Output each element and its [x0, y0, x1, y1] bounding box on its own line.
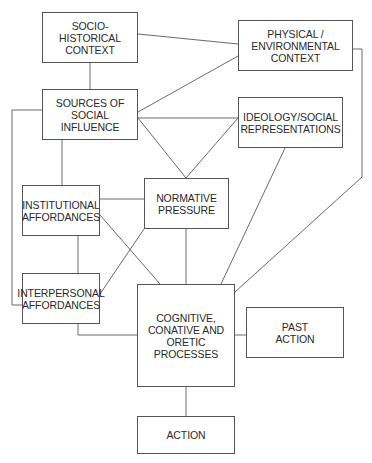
node-cognitive: COGNITIVE, CONATIVE AND ORETIC PROCESSES — [137, 284, 235, 387]
node-sources: SOURCES OF SOCIAL INFLUENCE — [42, 89, 138, 140]
edge-physical-to-cognitive — [235, 49, 362, 292]
node-ideology: IDEOLOGY/SOCIAL REPRESENTATIONS — [238, 97, 343, 148]
node-label: NORMATIVE PRESSURE — [156, 192, 217, 216]
edge-socio-historical-to-physical — [138, 34, 238, 44]
node-label: COGNITIVE, CONATIVE AND ORETIC PROCESSES — [148, 312, 224, 360]
node-label: INTERPERSONAL AFFORDANCES — [17, 287, 104, 311]
node-institutional: INSTITUTIONAL AFFORDANCES — [22, 185, 100, 236]
node-past-action: PAST ACTION — [246, 307, 344, 358]
node-socio-historical: SOCIO-HISTORICAL CONTEXT — [42, 12, 138, 63]
edge-interpersonal-to-cognitive — [78, 324, 137, 335]
node-label: IDEOLOGY/SOCIAL REPRESENTATIONS — [240, 111, 340, 135]
edge-ideology-to-cognitive — [221, 148, 285, 284]
node-label: ACTION — [166, 429, 205, 441]
node-interpersonal: INTERPERSONAL AFFORDANCES — [22, 273, 100, 324]
node-physical: PHYSICAL / ENVIRONMENTAL CONTEXT — [238, 20, 353, 71]
node-label: PHYSICAL / ENVIRONMENTAL CONTEXT — [251, 28, 339, 64]
node-label: SOURCES OF SOCIAL INFLUENCE — [43, 97, 137, 133]
node-label: PAST ACTION — [275, 321, 314, 345]
edge-sources-to-normative — [138, 118, 186, 178]
node-label: SOCIO-HISTORICAL CONTEXT — [43, 20, 137, 56]
edge-ideology-to-normative — [186, 118, 238, 178]
node-normative: NORMATIVE PRESSURE — [144, 178, 229, 229]
node-label: INSTITUTIONAL AFFORDANCES — [22, 199, 100, 223]
node-action: ACTION — [137, 416, 235, 454]
edge-sources-to-physical — [138, 56, 238, 112]
